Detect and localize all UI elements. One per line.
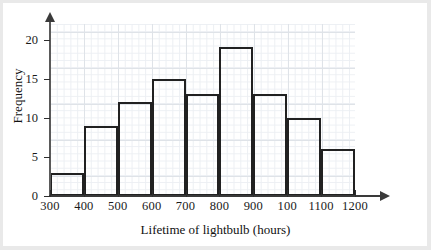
- x-axis-tick-label: 600: [142, 199, 161, 214]
- x-axis-tick: [355, 190, 356, 197]
- x-axis-tick: [84, 190, 85, 197]
- histogram-bar: [50, 173, 84, 196]
- x-axis-line: [49, 195, 382, 197]
- y-axis-title: Frequency: [10, 41, 26, 151]
- y-axis-tick-label: 15: [26, 71, 39, 86]
- figure-edge-right: [427, 0, 431, 250]
- histogram-bar: [84, 126, 118, 196]
- figure-edge-left: [0, 0, 3, 250]
- y-axis-tick-label: 5: [32, 149, 38, 164]
- x-axis-tick: [186, 190, 187, 197]
- y-axis-tick: [44, 157, 50, 158]
- y-axis-tick: [44, 196, 50, 197]
- x-axis-tick: [321, 190, 322, 197]
- histogram-bar: [321, 149, 355, 196]
- y-axis-tick-label: 20: [26, 32, 39, 47]
- histogram-bar: [287, 118, 321, 196]
- histogram-bar: [253, 94, 287, 196]
- histogram-bar: [118, 102, 152, 196]
- y-axis-line: [49, 20, 51, 197]
- y-axis-tick: [44, 118, 50, 119]
- histogram-bar: [219, 47, 253, 196]
- x-axis-tick: [287, 190, 288, 197]
- y-axis-tick-label: 0: [32, 189, 38, 204]
- x-axis-tick: [118, 190, 119, 197]
- x-axis-tick-label: 1200: [342, 199, 368, 214]
- x-axis-tick-label: 400: [74, 199, 93, 214]
- x-axis-tick-label: 800: [210, 199, 229, 214]
- plot-area: [50, 24, 355, 196]
- histogram-bars: [50, 24, 355, 196]
- x-axis-tick-label: 300: [40, 199, 59, 214]
- figure-edge-top: [0, 0, 431, 3]
- figure-edge-bottom: [0, 246, 431, 250]
- x-axis-tick-label: 100: [278, 199, 297, 214]
- y-axis-tick: [44, 79, 50, 80]
- x-axis-tick: [253, 190, 254, 197]
- y-axis-arrow-icon: [45, 12, 55, 22]
- x-axis-tick: [152, 190, 153, 197]
- histogram-bar: [186, 94, 220, 196]
- histogram-figure: 30040050060070080090010011001200 0510152…: [0, 0, 431, 250]
- y-axis-tick: [44, 40, 50, 41]
- histogram-bar: [152, 79, 186, 196]
- x-axis-tick-label: 1100: [308, 199, 333, 214]
- x-axis-tick-label: 500: [108, 199, 127, 214]
- x-axis-tick: [219, 190, 220, 197]
- x-axis-tick: [50, 190, 51, 197]
- x-axis-arrow-icon: [380, 191, 390, 201]
- x-axis-tick-label: 700: [176, 199, 195, 214]
- x-axis-title: Lifetime of lightbulb (hours): [0, 222, 431, 238]
- x-axis-tick-label: 900: [244, 199, 263, 214]
- y-axis-tick-label: 10: [26, 110, 39, 125]
